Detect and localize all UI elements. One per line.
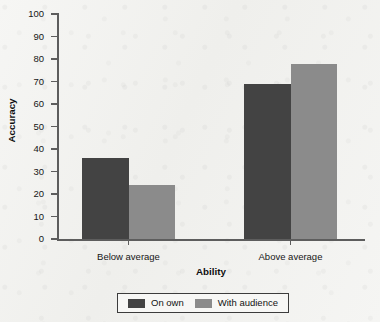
bar-chart: 0102030405060708090100 Accuracy Below av… xyxy=(0,0,380,322)
bar-with-audience xyxy=(291,64,338,240)
bar-on-own xyxy=(244,84,291,239)
legend-swatch-with-audience xyxy=(195,299,212,308)
legend-label: On own xyxy=(151,298,184,308)
legend-swatch-on-own xyxy=(128,299,145,308)
chart-legend: On ownWith audience xyxy=(117,293,289,313)
bar-with-audience xyxy=(129,185,176,239)
legend-item: With audience xyxy=(195,298,278,308)
legend-label: With audience xyxy=(218,298,278,308)
bar-series-group xyxy=(0,0,380,322)
bar-on-own xyxy=(82,158,129,239)
legend-item: On own xyxy=(128,298,184,308)
